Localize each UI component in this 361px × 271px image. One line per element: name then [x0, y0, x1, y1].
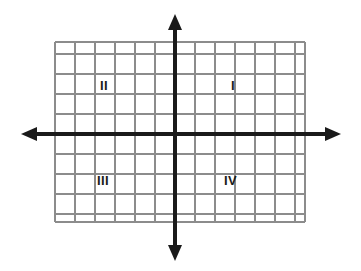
- coordinate-plane-figure: I II III IV: [0, 0, 361, 271]
- coordinate-plane-svg: [0, 0, 361, 271]
- arrow-down-icon: [168, 245, 182, 261]
- quadrant-4-label: IV: [224, 174, 237, 187]
- quadrant-2-label: II: [100, 79, 108, 92]
- arrow-up-icon: [168, 14, 182, 30]
- arrow-right-icon: [325, 127, 341, 141]
- arrow-left-icon: [21, 127, 37, 141]
- quadrant-1-label: I: [231, 79, 235, 92]
- axes: [21, 14, 341, 261]
- quadrant-3-label: III: [97, 174, 109, 187]
